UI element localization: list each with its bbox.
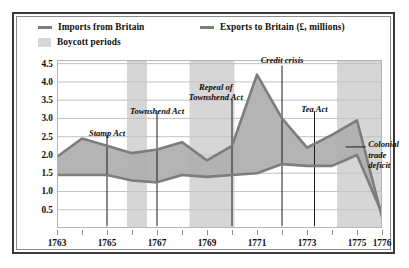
y-axis-tick-label: 0.5 bbox=[41, 205, 53, 215]
chart-legend: Imports from Britain Exports to Britain … bbox=[30, 22, 385, 54]
x-axis-tick-mark bbox=[282, 230, 283, 235]
x-axis-tick-mark bbox=[132, 230, 133, 235]
y-axis-tick-labels: 0.51.01.52.02.53.03.54.04.5 bbox=[22, 60, 53, 228]
legend-line-swatch-imports bbox=[38, 26, 52, 29]
legend-label-boycott: Boycott periods bbox=[57, 37, 121, 47]
x-axis-tick-mark bbox=[207, 230, 208, 235]
annotation-tea-act: Tea Act bbox=[301, 105, 327, 114]
x-axis-tick-mark bbox=[232, 230, 233, 235]
annotation-colonial-line2: trade bbox=[368, 151, 386, 160]
y-axis-tick-label: 2.0 bbox=[41, 150, 53, 160]
x-axis-tick-label: 1776 bbox=[373, 238, 392, 248]
legend-band-swatch-boycott bbox=[38, 38, 51, 47]
y-axis-tick-label: 1.0 bbox=[41, 186, 53, 196]
legend-line-swatch-exports bbox=[200, 26, 214, 29]
x-axis-tick-label: 1769 bbox=[198, 238, 217, 248]
x-axis-tick-mark bbox=[332, 230, 333, 235]
x-axis-tick-mark bbox=[182, 230, 183, 235]
x-axis-tick-label: 1763 bbox=[48, 238, 67, 248]
legend-label-imports: Imports from Britain bbox=[58, 22, 144, 32]
x-axis-tick-labels: 17631765176717691771177317751776 bbox=[57, 230, 382, 252]
y-axis-tick-label: 2.5 bbox=[41, 132, 53, 142]
x-axis-tick-mark bbox=[107, 230, 108, 235]
y-axis-tick-label: 4.5 bbox=[41, 59, 53, 69]
annotation-credit-crisis: Credit crisis bbox=[261, 56, 304, 65]
boycott-band bbox=[127, 60, 147, 228]
y-axis-tick-label: 1.5 bbox=[41, 168, 53, 178]
annotation-colonial-line1: Colonial bbox=[368, 140, 399, 149]
legend-item-exports: Exports to Britain (£, millions) bbox=[200, 22, 345, 32]
legend-item-imports: Imports from Britain bbox=[38, 22, 144, 32]
x-axis-tick-label: 1773 bbox=[298, 238, 317, 248]
x-axis-tick-mark bbox=[82, 230, 83, 235]
x-axis-tick-mark bbox=[257, 230, 258, 235]
x-axis-tick-mark bbox=[382, 230, 383, 235]
annotation-stamp-act: Stamp Act bbox=[89, 129, 125, 138]
x-axis-tick-mark bbox=[357, 230, 358, 235]
y-axis-tick-label: 3.0 bbox=[41, 113, 53, 123]
annotation-townshend-act: Townshend Act bbox=[130, 107, 184, 116]
x-axis-tick-label: 1775 bbox=[348, 238, 367, 248]
x-axis-tick-label: 1767 bbox=[148, 238, 167, 248]
x-axis-tick-label: 1765 bbox=[98, 238, 117, 248]
x-axis-tick-mark bbox=[157, 230, 158, 235]
annotation-repeal-line2: Townshend Act bbox=[189, 93, 243, 102]
legend-item-boycott: Boycott periods bbox=[38, 37, 121, 47]
x-axis-tick-mark bbox=[307, 230, 308, 235]
legend-label-exports: Exports to Britain (£, millions) bbox=[220, 22, 345, 32]
y-axis-tick-label: 3.5 bbox=[41, 95, 53, 105]
x-axis-tick-mark bbox=[57, 230, 58, 235]
chart-figure: Imports from Britain Exports to Britain … bbox=[0, 0, 409, 268]
x-axis-tick-label: 1771 bbox=[248, 238, 267, 248]
annotation-repeal-line1: Repeal of bbox=[199, 83, 233, 92]
y-axis-tick-label: 4.0 bbox=[41, 77, 53, 87]
annotation-colonial-line3: deficit bbox=[368, 161, 390, 170]
